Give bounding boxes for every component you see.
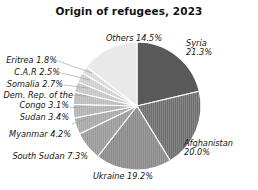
slice-label-drc-line1: Dem. Rep. of the: [0, 91, 73, 100]
slice-label-drc-line2: Congo 3.1%: [0, 101, 69, 110]
slice-label-others: Others 14.5%: [88, 34, 180, 43]
slice-label-car: C.A.R 2.5%: [0, 68, 60, 77]
slice-label-eritrea: Eritrea 1.8%: [0, 56, 57, 65]
slice-label-sudan: Sudan 3.4%: [0, 113, 69, 122]
slice-label-syria-line2: 21.3%: [186, 48, 212, 57]
slice-label-somalia: Somalia 2.7%: [0, 80, 63, 89]
slice-label-south-sudan: South Sudan 7.3%: [0, 152, 88, 161]
slice-label-myanmar: Myanmar 4.2%: [0, 130, 71, 139]
slice-label-ukraine: Ukraine 19.2%: [78, 172, 168, 181]
pie-slices: [73, 42, 201, 170]
slice-label-afghanistan-line2: 20.0%: [184, 148, 210, 157]
